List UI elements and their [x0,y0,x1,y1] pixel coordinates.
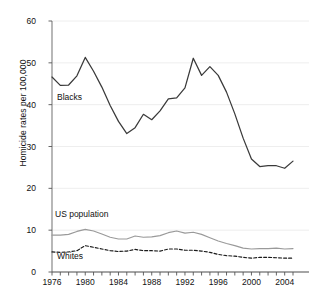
plot-area [0,0,327,304]
line-blacks [52,57,293,168]
series-label-blacks: Blacks [57,92,82,102]
series-label-whites: Whites [57,251,83,261]
homicide-rates-chart: Homicide rates per 100,000 0102030405060… [0,0,327,304]
series-label-us-population: US population [55,209,108,219]
line-whites [52,246,293,259]
gridlines [52,21,309,272]
data-series-lines [52,57,293,258]
